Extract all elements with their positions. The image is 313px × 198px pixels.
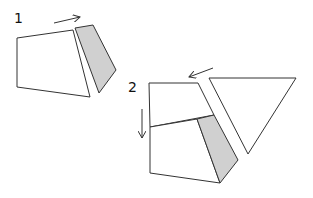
arrow-left-icon [189,68,213,77]
step-2-group [142,68,296,183]
step-1-label: 1 [14,11,23,25]
diagram-canvas [0,0,313,198]
step-1-group [17,17,116,97]
arrow-right-icon [54,17,80,23]
step-2-label: 2 [128,80,137,94]
